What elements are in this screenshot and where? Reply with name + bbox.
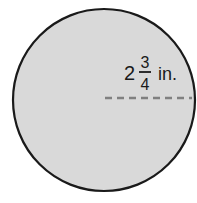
label-numerator: 3 xyxy=(141,54,150,71)
label-whole-number: 2 xyxy=(124,62,135,84)
circle-shape xyxy=(13,9,195,191)
label-denominator: 4 xyxy=(141,76,150,93)
circle-diagram: 2 3 4 in. xyxy=(0,0,197,203)
label-unit: in. xyxy=(158,64,177,84)
